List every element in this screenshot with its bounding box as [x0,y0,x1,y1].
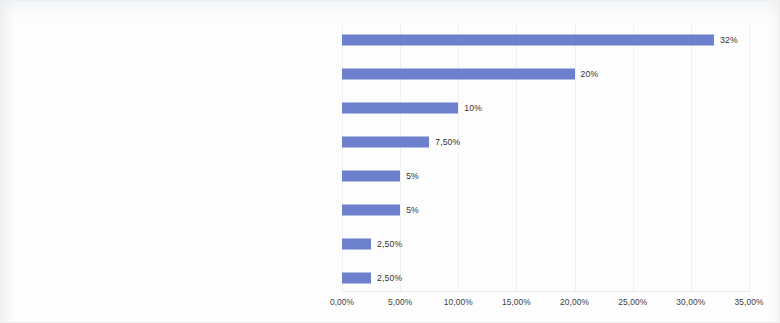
x-tick-label: 20,00% [560,297,589,307]
bar-value-label: 32% [720,36,738,45]
gridline-3500 [749,23,750,291]
x-tick-label: 0,00% [330,297,354,307]
bar-row: Client's order7,50% [342,125,749,159]
bar-row: Idea2,50% [342,261,749,295]
bar [342,273,371,284]
bar-row: Willingness to distinguish oneself again… [342,193,749,227]
bar-value-label: 5% [406,172,419,181]
bar [342,205,400,216]
bar [342,171,400,182]
x-tick-label: 35,00% [734,297,763,307]
bar [342,103,458,114]
bar-row: Results of own R&D32% [342,23,749,57]
x-axis-tick-labels: 0,00%5,00%10,00%15,00%20,00%25,00%30,00%… [342,297,750,311]
bar-value-label: 10% [464,104,482,113]
bar-value-label: 2,50% [377,240,402,249]
plot-area: Results of own R&D32%Identification of m… [342,23,749,291]
x-tick-label: 30,00% [676,297,705,307]
x-tick-label: 25,00% [618,297,647,307]
x-tick-label: 10,00% [444,297,473,307]
bar-row: Willingness to adapt the technology to t… [342,227,749,261]
bar [342,137,429,148]
x-tick-label: 15,00% [502,297,531,307]
bar-row: Identification of market needs20% [342,57,749,91]
bar-value-label: 2,50% [377,274,402,283]
x-axis-line [342,291,750,292]
bar-value-label: 7,50% [435,138,460,147]
bar-value-label: 5% [406,206,419,215]
bar-row: Inspiration from the competition10% [342,91,749,125]
bar-chart-figure: Results of own R&D32%Identification of m… [0,0,780,323]
bar [342,69,575,80]
bar-row: Cooperation with science5% [342,159,749,193]
bar-value-label: 20% [581,70,599,79]
bar [342,35,714,46]
bar [342,239,371,250]
x-tick-label: 5,00% [388,297,412,307]
